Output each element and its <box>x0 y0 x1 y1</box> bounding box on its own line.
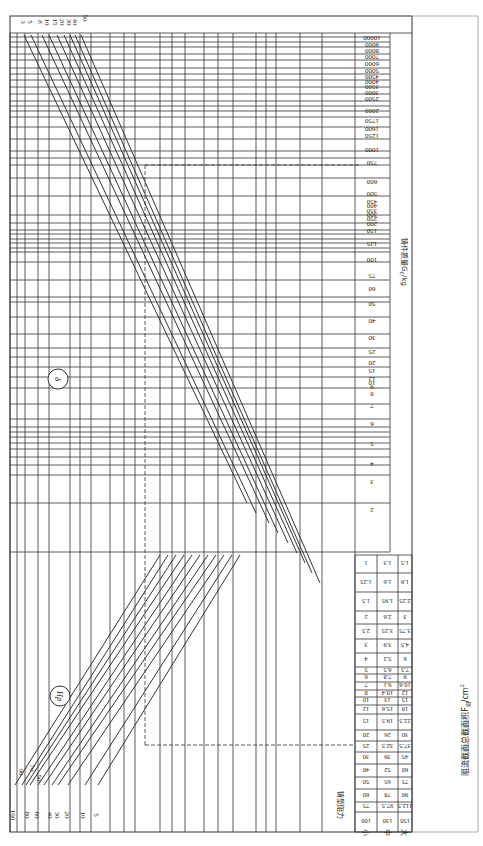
table-cell: 78 <box>384 792 391 799</box>
row-header: 中 <box>383 829 392 836</box>
resistance-label: 铸型阻力 <box>336 791 345 819</box>
mass-tick-label: 6000 <box>365 60 380 68</box>
delta-line-label: 3 <box>19 20 27 24</box>
svg-text:20: 20 <box>368 359 376 367</box>
mass-tick-label: 3 <box>370 478 374 486</box>
svg-text:125: 125 <box>366 240 377 248</box>
hp-line-label: 40 <box>46 812 54 820</box>
svg-text:40: 40 <box>368 317 376 325</box>
mass-tick-label: 1750 <box>365 117 380 125</box>
table-cell: 6.5 <box>383 667 391 674</box>
svg-text:10.6: 10.6 <box>399 682 411 689</box>
svg-text:1.5: 1.5 <box>401 560 409 567</box>
table-cell: 1.5 <box>401 560 409 567</box>
delta-line-label: 8 <box>36 20 44 24</box>
svg-text:15: 15 <box>51 19 59 27</box>
table-cell: 2.25 <box>399 598 410 605</box>
table-cell: 22.5 <box>399 718 410 725</box>
svg-text:1750: 1750 <box>365 117 380 125</box>
mass-tick-label: 2500 <box>365 95 380 103</box>
table-cell: 45 <box>402 754 409 761</box>
svg-text:6: 6 <box>403 656 407 663</box>
svg-text:2: 2 <box>364 614 367 621</box>
svg-text:30: 30 <box>402 732 409 739</box>
table-cell: 3.9 <box>383 642 391 649</box>
table-cell: 90 <box>402 792 409 799</box>
svg-text:1.5: 1.5 <box>362 598 370 605</box>
svg-text:200: 200 <box>366 220 377 228</box>
mass-tick-label: 750 <box>366 159 377 167</box>
table-cell: 7.5 <box>401 667 409 674</box>
table-cell: 60 <box>402 767 409 774</box>
svg-text:中: 中 <box>383 829 392 836</box>
table-cell: 112.5 <box>398 803 412 810</box>
table-cell: 1 <box>364 560 367 567</box>
mass-tick-label: 8 <box>370 390 374 398</box>
mass-tick-label: 2 <box>370 506 374 514</box>
svg-text:50: 50 <box>81 15 89 23</box>
svg-text:3: 3 <box>19 20 27 24</box>
svg-text:600: 600 <box>366 178 377 186</box>
mass-tick-label: 500 <box>366 190 377 198</box>
mass-tick-label: 40 <box>368 317 376 325</box>
svg-text:阻流截面总截面积F阻/cm2: 阻流截面总截面积F阻/cm2 <box>459 684 472 776</box>
table-cell: 75 <box>402 779 409 786</box>
mass-tick-label: 20 <box>368 359 376 367</box>
table-cell: 12 <box>402 690 409 697</box>
delta-line-label: 10 <box>43 19 51 27</box>
table-cell: 9 <box>403 674 406 681</box>
table-cell: 3 <box>403 614 406 621</box>
table-cell: 97.5 <box>382 803 393 810</box>
svg-text:7000: 7000 <box>365 53 380 61</box>
svg-text:2: 2 <box>370 506 374 514</box>
svg-text:2.5: 2.5 <box>362 628 370 635</box>
svg-text:小: 小 <box>361 829 370 836</box>
svg-text:75: 75 <box>368 272 376 280</box>
table-cell: 30 <box>402 732 409 739</box>
table-cell: 3.75 <box>399 628 410 635</box>
svg-text:100: 100 <box>361 818 371 825</box>
svg-text:25: 25 <box>363 743 370 750</box>
svg-text:30: 30 <box>363 754 370 761</box>
delta-line-label: 20 <box>58 19 66 27</box>
svg-text:39: 39 <box>384 754 391 761</box>
svg-text:7: 7 <box>370 402 374 410</box>
svg-text:3.9: 3.9 <box>383 642 391 649</box>
svg-text:40: 40 <box>363 767 370 774</box>
mass-tick-label: 150 <box>366 227 377 235</box>
table-cell: 4 <box>364 656 368 663</box>
mass-tick-label: 15 <box>368 367 376 375</box>
table-cell: 6 <box>403 656 407 663</box>
mass-tick-label: 75 <box>368 272 376 280</box>
mass-tick-label: 7000 <box>365 53 380 61</box>
svg-text:750: 750 <box>366 159 377 167</box>
mass-tick-label: 50 <box>368 300 376 308</box>
table-cell: 9.1 <box>383 682 391 689</box>
table-cell: 1.9 <box>401 579 409 586</box>
table-cell: 52 <box>384 767 391 774</box>
mass-tick-label: 60 <box>368 285 376 293</box>
svg-text:100: 100 <box>366 256 377 264</box>
table-cell: 10.4 <box>381 690 393 697</box>
svg-text:22.5: 22.5 <box>399 718 410 725</box>
svg-text:10000: 10000 <box>363 34 381 42</box>
table-cell: 3.25 <box>382 628 393 635</box>
svg-text:6000: 6000 <box>365 60 380 68</box>
table-cell: 1.25 <box>360 579 371 586</box>
svg-text:1.9: 1.9 <box>401 579 409 586</box>
svg-text:7.8: 7.8 <box>383 674 391 681</box>
svg-text:1.25: 1.25 <box>360 579 371 586</box>
mass-tick-label: 1600 <box>365 125 380 133</box>
hp-line-label: 20 <box>63 812 71 820</box>
table-cell: 60 <box>363 792 370 799</box>
table-cell: 2.6 <box>383 614 392 621</box>
table-cell: 19.5 <box>382 718 393 725</box>
svg-text:130: 130 <box>383 818 393 825</box>
mass-axis-title-label: 铸件质量GC/kg <box>399 238 409 286</box>
svg-text:9: 9 <box>370 383 374 391</box>
svg-text:20: 20 <box>63 812 71 820</box>
svg-text:1: 1 <box>364 560 367 567</box>
svg-text:15: 15 <box>402 697 409 704</box>
delta-line-label: 40 <box>71 19 79 27</box>
svg-text:45: 45 <box>402 754 409 761</box>
